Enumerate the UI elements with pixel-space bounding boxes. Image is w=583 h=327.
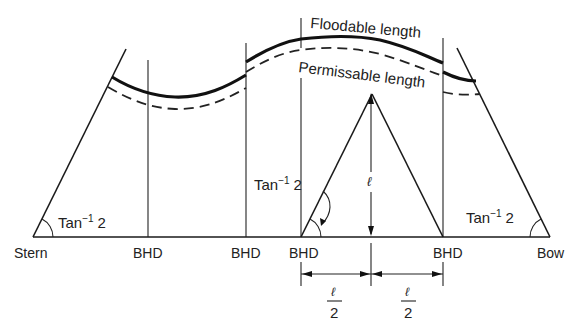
svg-text:Tan−12: Tan−12 [466,208,514,226]
floodable-curve-seg-1 [112,75,246,97]
svg-text:ℓ: ℓ [405,285,410,299]
bow-label: Bow [537,245,565,261]
stern-angle-label: Tan−12 [58,213,106,231]
svg-text:2: 2 [404,304,412,321]
bow-angle-label: Tan−12 [466,208,514,226]
bulkhead-label-2: BHD [231,245,261,261]
dim-arrow-right-end-icon [432,271,442,277]
svg-text:Tan−12: Tan−12 [254,175,302,193]
svg-text:Tan−12: Tan−12 [58,213,106,231]
triangle-angle-arrow-icon [320,218,326,226]
triangle-angle-arc [310,219,321,237]
svg-text:ℓ: ℓ [331,285,336,299]
dim-arrow-left-start-icon [302,271,312,277]
stern-angle-arc [42,219,53,237]
half-length-left-label: ℓ 2 [327,285,342,321]
triangle-right-side [372,94,443,237]
dim-arrow-left-end-icon [360,271,370,277]
floodable-curve-seg-2 [246,36,443,63]
half-length-right-label: ℓ 2 [401,285,416,321]
triangle-angle-pointer [322,191,330,224]
permissible-curve-seg-3 [443,92,480,95]
bulkhead-label-1: BHD [133,245,163,261]
stern-label: Stern [14,245,47,261]
dim-arrow-right-start-icon [372,271,382,277]
triangle-left-side [301,94,372,237]
triangle-angle-label: Tan−12 [254,175,302,193]
bulkhead-label-4: BHD [433,245,463,261]
bow-angle-arc [530,219,541,237]
triangle-height-label: ℓ [367,174,372,189]
floodable-length-diagram: Floodable length Permissable length ℓ Ta… [0,0,583,327]
bulkhead-label-3: BHD [289,245,319,261]
height-arrow-down-icon [368,226,374,236]
svg-text:2: 2 [330,304,338,321]
